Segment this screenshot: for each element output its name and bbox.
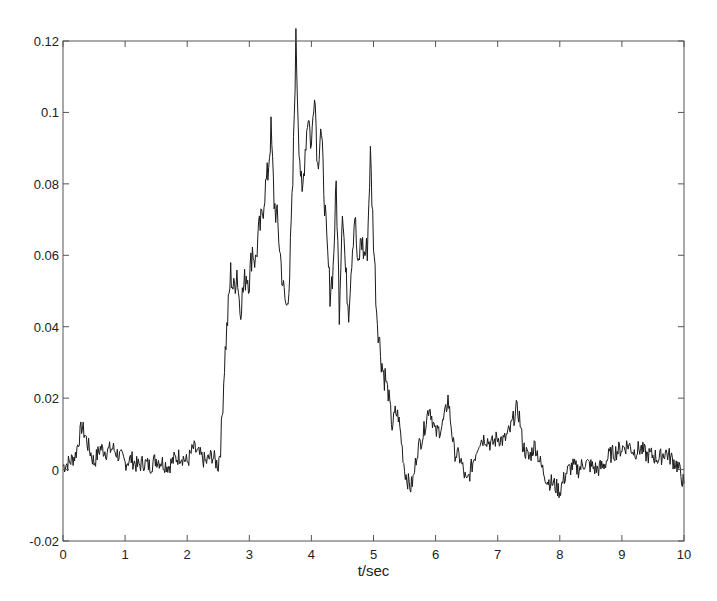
x-tick-label: 0 (59, 547, 66, 562)
y-tick-label: -0.02 (29, 534, 59, 549)
x-axis-label: t/sec (358, 562, 390, 579)
y-tick-label: 0.06 (34, 248, 59, 263)
line-chart: 012345678910-0.0200.020.040.060.080.10.1… (0, 0, 717, 601)
x-tick-label: 4 (308, 547, 315, 562)
x-tick-label: 6 (432, 547, 439, 562)
x-tick-label: 8 (556, 547, 563, 562)
x-tick-label: 1 (121, 547, 128, 562)
x-tick-label: 2 (184, 547, 191, 562)
chart-container: 012345678910-0.0200.020.040.060.080.10.1… (0, 0, 717, 601)
x-tick-label: 7 (494, 547, 501, 562)
x-tick-label: 5 (370, 547, 377, 562)
x-tick-label: 3 (246, 547, 253, 562)
x-tick-label: 9 (618, 547, 625, 562)
y-tick-label: 0.08 (34, 177, 59, 192)
y-tick-label: 0.02 (34, 391, 59, 406)
x-tick-label: 10 (677, 547, 691, 562)
y-tick-label: 0.1 (41, 105, 59, 120)
y-tick-label: 0.04 (34, 320, 59, 335)
axis-ticks: 012345678910-0.0200.020.040.060.080.10.1… (29, 34, 691, 562)
signal-line (63, 29, 684, 498)
y-tick-label: 0.12 (34, 34, 59, 49)
y-tick-label: 0 (52, 463, 59, 478)
